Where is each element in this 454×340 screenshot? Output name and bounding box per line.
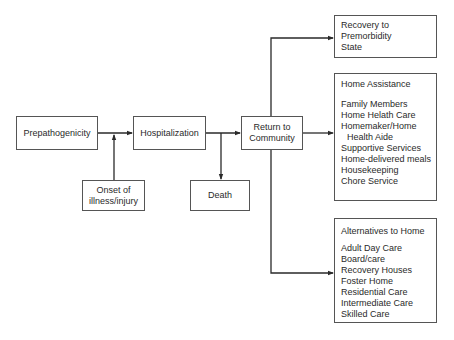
node-recovery: Recovery to Premorbidity State [334,15,437,58]
list-item: Intermediate Care [341,298,430,309]
list-item: Skilled Care [341,309,430,320]
node-label: Prepathogenicity [23,128,90,139]
node-label-line1: Onset of [96,185,130,196]
list-item: Chore Service [341,176,430,187]
node-alternatives-to-home: Alternatives to Home Adult Day Care Boar… [334,218,437,323]
list-item: Health Aide [341,132,430,143]
node-title: Alternatives to Home [341,226,430,237]
node-label: Death [208,190,232,201]
list-item: Recovery Houses [341,265,430,276]
list-item: Adult Day Care [341,243,430,254]
node-return-to-community: Return to Community [241,116,303,150]
list-item: Board/care [341,254,430,265]
node-prepathogenicity: Prepathogenicity [16,116,98,150]
list-item: Home-delivered meals [341,154,430,165]
list-item: Residential Care [341,287,430,298]
node-label-line3: State [341,42,430,53]
node-label-line1: Return to [253,122,290,133]
list-item: Family Members [341,99,430,110]
list-item: Housekeeping [341,165,430,176]
list-item: Homemaker/Home [341,121,430,132]
node-label-line2: illness/injury [89,196,138,207]
node-label-line2: Premorbidity [341,31,430,42]
list-item: Foster Home [341,276,430,287]
node-label: Hospitalization [140,128,199,139]
list-item: Supportive Services [341,143,430,154]
node-label-line2: Community [249,133,295,144]
list-item: Home Helath Care [341,110,430,121]
node-title: Home Assistance [341,79,430,90]
node-label-line1: Recovery to [341,20,430,31]
node-hospitalization: Hospitalization [133,116,206,150]
node-onset: Onset of illness/injury [82,180,145,211]
node-death: Death [190,180,250,211]
arrow-return-to-alternatives [271,150,333,273]
arrow-return-to-recovery [271,38,333,116]
node-home-assistance: Home Assistance Family Members Home Hela… [334,73,437,201]
